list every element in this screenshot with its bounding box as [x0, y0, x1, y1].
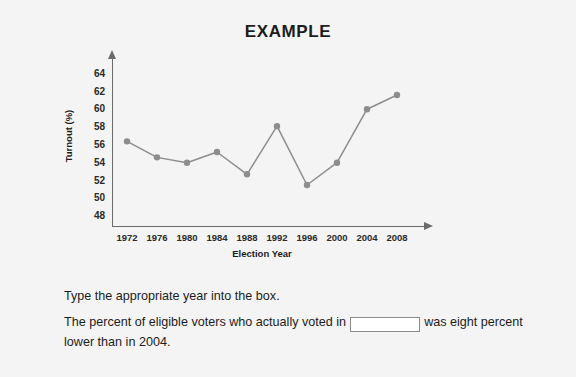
plot-area: 646260585654525048 197219761980198419881…: [112, 62, 412, 222]
x-tick-label: 1996: [296, 232, 317, 243]
series-line: [127, 95, 397, 185]
x-tick-label: 1988: [236, 232, 257, 243]
data-point: [124, 138, 130, 144]
data-point: [334, 160, 340, 166]
x-tick-label: 2004: [356, 232, 377, 243]
y-tick-label: 52: [94, 174, 105, 185]
line-chart: Turnout (%) Election Year 64626058565452…: [0, 52, 576, 272]
question-card: EXAMPLE Turnout (%) Election Year 646260…: [0, 0, 576, 377]
x-tick-label: 1984: [206, 232, 227, 243]
x-tick-label: 2000: [326, 232, 347, 243]
data-point: [154, 154, 160, 160]
turnout-series: [112, 62, 412, 226]
data-point: [364, 106, 370, 112]
x-axis-arrow-icon: [424, 222, 433, 230]
x-tick-label: 1976: [146, 232, 167, 243]
prompt-line: Type the appropriate year into the box.: [64, 286, 534, 306]
statement-line: The percent of eligible voters who actua…: [64, 312, 534, 352]
y-tick-label: 62: [94, 85, 105, 96]
x-axis-line: [112, 226, 426, 227]
x-tick-label: 2008: [386, 232, 407, 243]
y-axis-arrow-icon: [108, 50, 116, 59]
x-axis-title: Election Year: [112, 248, 412, 259]
y-tick-label: 60: [94, 103, 105, 114]
page-title: EXAMPLE: [0, 22, 576, 42]
page-root: EXAMPLE Turnout (%) Election Year 646260…: [0, 0, 576, 377]
data-point: [394, 92, 400, 98]
data-point: [244, 171, 250, 177]
x-tick-label: 1980: [176, 232, 197, 243]
x-tick-label: 1992: [266, 232, 287, 243]
y-tick-label: 48: [94, 210, 105, 221]
series-markers: [124, 92, 400, 188]
x-tick-label: 1972: [116, 232, 137, 243]
data-point: [214, 149, 220, 155]
data-point: [304, 182, 310, 188]
y-tick-label: 64: [94, 67, 105, 78]
data-point: [184, 160, 190, 166]
y-axis-title: Turnout (%): [63, 110, 74, 163]
year-answer-input[interactable]: [350, 317, 420, 332]
statement-before-text: The percent of eligible voters who actua…: [64, 315, 346, 329]
y-tick-label: 50: [94, 192, 105, 203]
y-tick-label: 54: [94, 156, 105, 167]
question-text: Type the appropriate year into the box. …: [64, 286, 534, 352]
y-tick-label: 56: [94, 139, 105, 150]
data-point: [274, 123, 280, 129]
y-tick-label: 58: [94, 121, 105, 132]
